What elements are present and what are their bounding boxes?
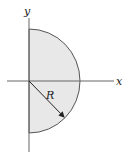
y-axis-label: y — [23, 5, 31, 18]
semicircle-diagram: x y R — [0, 0, 127, 157]
x-axis-label: x — [116, 75, 123, 88]
radius-label: R — [45, 89, 54, 102]
